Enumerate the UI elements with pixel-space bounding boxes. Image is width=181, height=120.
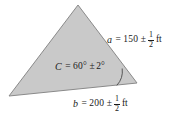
- angle-c-variable: C: [55, 62, 62, 72]
- side-b-tolerance-denominator: 2: [114, 104, 120, 114]
- angle-c-tolerance: 2°: [96, 62, 105, 72]
- angle-c-equals: =: [65, 62, 70, 72]
- label-angle-c: C = 60° ± 2°: [55, 62, 105, 72]
- side-b-equals: =: [82, 99, 87, 109]
- side-a-tolerance-denominator: 2: [148, 40, 154, 50]
- side-a-value: 150: [123, 35, 138, 45]
- side-a-tolerance-fraction: 1 2: [148, 31, 154, 49]
- side-b-value: 200: [89, 99, 104, 109]
- side-b-plus-minus: ±: [107, 99, 112, 109]
- label-side-a: a = 150 ± 1 2 ft: [107, 31, 162, 49]
- side-a-equals: =: [116, 35, 121, 45]
- side-a-unit: ft: [156, 35, 162, 45]
- side-b-variable: b: [73, 99, 78, 109]
- side-b-tolerance-fraction: 1 2: [114, 95, 120, 113]
- triangle-shape: [9, 5, 137, 96]
- side-b-tolerance-numerator: 1: [114, 95, 120, 104]
- side-a-tolerance-numerator: 1: [148, 31, 154, 40]
- side-b-unit: ft: [122, 99, 128, 109]
- angle-c-plus-minus: ±: [89, 62, 94, 72]
- side-a-variable: a: [107, 35, 112, 45]
- side-a-plus-minus: ±: [141, 35, 146, 45]
- label-side-b: b = 200 ± 1 2 ft: [73, 95, 128, 113]
- angle-c-value: 60°: [73, 62, 87, 72]
- triangle-measurement-figure: a = 150 ± 1 2 ft C = 60° ± 2° b = 200 ± …: [0, 0, 181, 120]
